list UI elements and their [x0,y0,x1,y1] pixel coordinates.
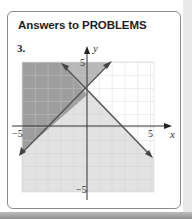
y-axis-arrow-icon [84,46,90,54]
y-axis-label: y [92,42,98,54]
inequality-graph: y x 5 −5 −5 5 [0,0,192,219]
x-tick-neg5: −5 [12,128,23,139]
y-tick-neg5: −5 [76,184,87,195]
y-tick-5: 5 [80,57,85,68]
x-axis-label: x [169,128,175,140]
x-tick-5: 5 [148,128,153,139]
